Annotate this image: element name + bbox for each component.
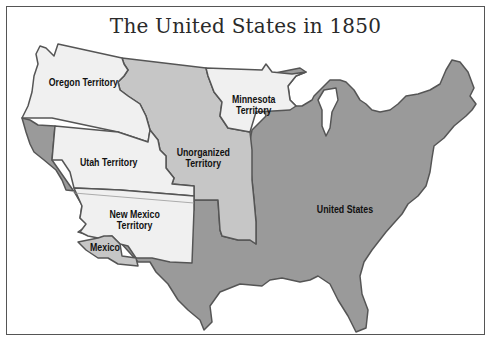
us-map-1850 [0, 0, 491, 349]
label-unorganized-territory: Unorganized Territory [177, 147, 230, 169]
label-minnesota-territory: Minnesota Territory [232, 94, 276, 116]
label-united-states: United States [317, 204, 373, 215]
label-new-mexico-territory: New Mexico Territory [109, 209, 159, 231]
label-oregon-territory: Oregon Territory [49, 77, 118, 88]
label-utah-territory: Utah Territory [80, 157, 138, 168]
label-mexico: Mexico [90, 242, 120, 253]
